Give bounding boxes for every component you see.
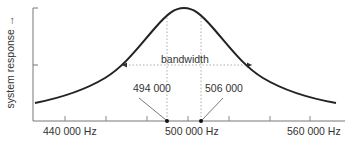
marker-494000 [165, 119, 169, 123]
left-marker-label: 494 000 [133, 82, 171, 94]
x-tick-label-500000: 500 000 Hz [165, 125, 219, 137]
leader-506000 [202, 98, 223, 120]
x-ticks [65, 116, 310, 121]
x-tick-label-560000: 560 000 Hz [287, 125, 341, 137]
x-tick-label-440000: 440 000 Hz [43, 125, 97, 137]
y-axis-label: system response → [4, 14, 16, 110]
right-marker-label: 506 000 [205, 82, 243, 94]
resonance-chart [0, 0, 357, 145]
marker-506000 [199, 119, 203, 123]
bandwidth-label: bandwidth [161, 53, 209, 65]
leader-494000 [139, 98, 166, 120]
